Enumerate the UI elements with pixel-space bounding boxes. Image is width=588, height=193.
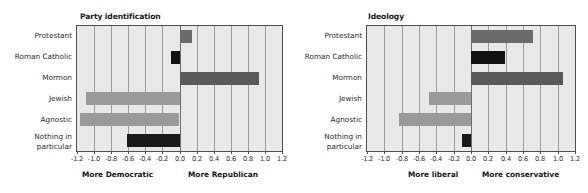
bar-nothing-in-particular <box>462 134 471 147</box>
gridline <box>558 26 559 151</box>
y-axis-label-roman-catholic: Roman Catholic <box>242 52 362 61</box>
gridline <box>436 26 437 151</box>
y-axis-label-agnostic: Agnostic <box>242 115 362 124</box>
bar-protestant <box>471 30 533 43</box>
zero-line <box>471 26 472 151</box>
bar-agnostic <box>399 113 471 126</box>
gridline <box>506 26 507 151</box>
gridline <box>419 26 420 151</box>
x-tick-mark <box>367 152 368 154</box>
gridline <box>523 26 524 151</box>
axis-end-label-left-ideology: More liberal <box>408 170 458 179</box>
y-axis-label-mormon: Mormon <box>242 73 362 82</box>
gridline <box>540 26 541 151</box>
chart-panel-ideology: Ideology ProtestantRoman CatholicMormonJ… <box>0 0 588 193</box>
figure-canvas: Party identification ProtestantRoman Cat… <box>0 0 588 193</box>
bar-roman-catholic <box>471 51 505 64</box>
gridline <box>454 26 455 151</box>
bar-mormon <box>471 72 563 85</box>
x-tick-mark <box>558 152 559 154</box>
plot-area-ideology <box>366 25 576 152</box>
x-tick-mark <box>575 152 576 154</box>
x-tick-label: 1.2 <box>563 155 587 163</box>
gridline <box>384 26 385 151</box>
axis-end-label-right-ideology: More conservative <box>482 170 559 179</box>
x-tick-mark <box>488 152 489 154</box>
x-tick-mark <box>523 152 524 154</box>
x-tick-mark <box>419 152 420 154</box>
x-tick-mark <box>402 152 403 154</box>
gridline <box>402 26 403 151</box>
panel-title-ideology: Ideology <box>368 12 404 21</box>
y-axis-label-nothing-in-particular: Nothing in particular <box>306 132 362 151</box>
x-tick-mark <box>540 152 541 154</box>
gridline <box>488 26 489 151</box>
x-tick-mark <box>506 152 507 154</box>
bar-jewish <box>429 92 471 105</box>
x-tick-mark <box>454 152 455 154</box>
y-axis-label-jewish: Jewish <box>242 94 362 103</box>
y-axis-label-protestant: Protestant <box>242 31 362 40</box>
x-tick-mark <box>384 152 385 154</box>
x-tick-mark <box>471 152 472 154</box>
x-tick-mark <box>436 152 437 154</box>
